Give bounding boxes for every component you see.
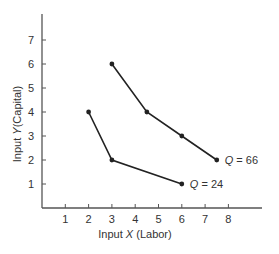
series-group [86, 62, 219, 187]
data-point [86, 110, 91, 115]
x-tick-label: 1 [62, 213, 68, 225]
curve-label-value: = 24 [198, 178, 223, 190]
x-tick-label: 8 [225, 213, 231, 225]
isoquant-chart: 123456781234567Input X (Labor)Input Y(Ca… [0, 0, 279, 254]
y-tick-label: 1 [28, 178, 34, 190]
data-point [179, 134, 184, 139]
isoquant-line-0 [89, 112, 182, 184]
x-tick-label: 3 [109, 213, 115, 225]
y-axis-label-suffix: (Capital) [11, 86, 23, 128]
y-tick-label: 2 [28, 154, 34, 166]
y-tick-label: 4 [28, 106, 34, 118]
x-axis-label-prefix: Input [98, 228, 126, 240]
data-point [110, 158, 115, 163]
x-axis-label-suffix: (Labor) [133, 228, 172, 240]
y-axis-label-prefix: Input [11, 135, 23, 163]
y-tick-label: 3 [28, 130, 34, 142]
data-point [179, 182, 184, 187]
x-tick-label: 6 [179, 213, 185, 225]
data-point [110, 62, 115, 67]
curve-label-value: = 66 [233, 154, 258, 166]
isoquant-line-1 [112, 64, 217, 160]
labels-group: Q = 24Q = 66 [190, 154, 258, 190]
x-tick-label: 7 [202, 213, 208, 225]
axes: 123456781234567Input X (Labor)Input Y(Ca… [11, 14, 262, 240]
curve-label-1: Q = 66 [225, 154, 258, 166]
y-tick-label: 7 [28, 34, 34, 46]
data-point [214, 158, 219, 163]
x-tick-label: 5 [155, 213, 161, 225]
y-tick-label: 5 [28, 82, 34, 94]
x-tick-label: 4 [132, 213, 138, 225]
x-tick-label: 2 [86, 213, 92, 225]
curve-label-0: Q = 24 [190, 178, 223, 190]
data-point [144, 110, 149, 115]
y-axis-label: Input Y(Capital) [11, 86, 23, 162]
x-axis-label: Input X (Labor) [98, 228, 171, 240]
y-tick-label: 6 [28, 58, 34, 70]
